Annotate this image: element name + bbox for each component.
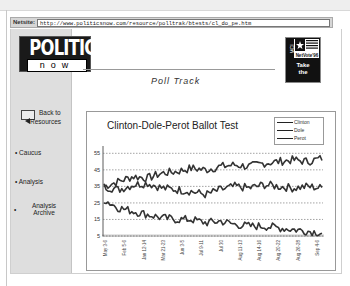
svg-text:May 3-6: May 3-6 xyxy=(103,240,108,257)
svg-text:5: 5 xyxy=(97,233,100,239)
window-border xyxy=(6,10,7,286)
address-label: Netsite: xyxy=(13,19,35,25)
sidebar-item-caucus[interactable]: • Caucus xyxy=(15,149,41,156)
line-plot: 51525354555May 3-6Feb 5-6Jan 12-14Mar 21… xyxy=(87,112,335,270)
back-label-line1: Back to xyxy=(39,109,61,116)
svg-text:Mar 21-23: Mar 21-23 xyxy=(161,240,166,261)
sidebar-item-analysis[interactable]: • Analysis xyxy=(15,178,43,185)
header-divider xyxy=(83,69,275,70)
badge-text-line2: the xyxy=(286,69,320,76)
badge-text: Take the xyxy=(286,62,320,76)
back-label-line2: Resources xyxy=(30,118,61,125)
svg-text:Aug 20-22: Aug 20-22 xyxy=(276,240,281,261)
svg-text:55: 55 xyxy=(94,150,100,156)
svg-text:Jun 3-5: Jun 3-5 xyxy=(180,240,185,256)
url-input[interactable]: http://www.politicsnow.com/resource/poll… xyxy=(37,19,330,27)
sidebar-item-label: Analysis xyxy=(19,178,43,185)
browser-toolbar xyxy=(0,0,350,11)
logo-text-top: POLITICS xyxy=(29,37,80,59)
badge-text-line1: Take xyxy=(286,62,320,69)
svg-text:45: 45 xyxy=(94,167,100,173)
svg-text:Sep 4-6: Sep 4-6 xyxy=(315,240,320,256)
svg-text:Jul 9-11: Jul 9-11 xyxy=(199,240,204,256)
web-page: POLITICS now Poll Track MCI NetVote'96 T… xyxy=(10,29,342,274)
sidebar-item-label-2: Archive xyxy=(33,209,55,216)
bullet-icon: • xyxy=(14,206,16,213)
mci-label: MCI xyxy=(289,44,295,53)
sidebar-item-label: Analysis xyxy=(23,202,65,209)
sidebar-item-analysis-archive[interactable]: Analysis •Archive xyxy=(15,202,65,216)
svg-text:Jul 30: Jul 30 xyxy=(219,240,224,253)
netvote-label: NetVote'96 xyxy=(296,53,319,58)
svg-text:Feb 5-6: Feb 5-6 xyxy=(122,240,127,256)
netvote-badge[interactable]: MCI NetVote'96 Take the xyxy=(285,37,321,83)
svg-text:Aug 11-13: Aug 11-13 xyxy=(238,240,243,261)
svg-text:Aug 14-16: Aug 14-16 xyxy=(257,240,262,261)
logo-text-bottom: now xyxy=(27,59,87,72)
ballot-test-chart: Clinton-Dole-Perot Ballot Test Clinton D… xyxy=(86,111,336,271)
svg-text:25: 25 xyxy=(94,200,100,206)
svg-text:Aug 26-28: Aug 26-28 xyxy=(296,240,301,261)
svg-text:35: 35 xyxy=(94,183,100,189)
svg-text:Jan 12-14: Jan 12-14 xyxy=(142,240,147,261)
svg-text:15: 15 xyxy=(94,216,100,222)
politics-now-logo[interactable]: POLITICS now xyxy=(19,36,91,72)
sidebar-item-label: Caucus xyxy=(19,149,41,156)
flag-icon: MCI NetVote'96 xyxy=(287,39,319,58)
address-bar: Netsite: http://www.politicsnow.com/reso… xyxy=(10,17,333,28)
section-title: Poll Track xyxy=(151,76,200,86)
